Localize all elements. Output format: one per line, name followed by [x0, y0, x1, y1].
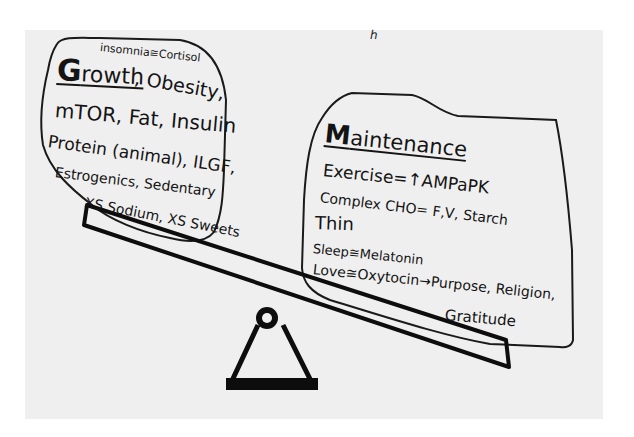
growth-title: Growth — [56, 55, 145, 90]
fulcrum-triangle — [230, 325, 313, 385]
pivot-hole — [262, 313, 272, 323]
fulcrum-base — [226, 378, 318, 390]
maintenance-title-initial: M — [323, 118, 352, 151]
corner-scribble: ℎ — [370, 28, 378, 42]
maintenance-line-thin: Thin — [315, 214, 354, 233]
growth-title-initial: G — [56, 52, 82, 88]
